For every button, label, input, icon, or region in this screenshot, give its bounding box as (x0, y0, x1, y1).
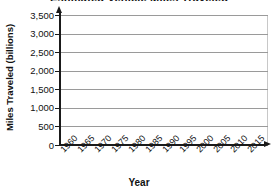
y-tick-mark (55, 89, 60, 90)
y-tick-label: 1,500 (8, 85, 54, 95)
gridline (60, 15, 268, 16)
gridline (60, 108, 268, 109)
x-axis-arrow-icon (264, 141, 271, 147)
y-tick-label: 2,500 (8, 48, 54, 58)
y-tick-label: 2,000 (8, 66, 54, 76)
y-tick-label: 500 (8, 122, 54, 132)
y-tick-label: 3,000 (8, 29, 54, 39)
y-tick-mark (55, 52, 60, 53)
y-tick-mark (55, 34, 60, 35)
y-axis-title: Miles Traveled (billions) (4, 19, 15, 137)
y-tick-mark (55, 15, 60, 16)
y-tick-mark (55, 126, 60, 127)
chart-figure: Estimated Vehicle Miles Traveled 3,500 3… (0, 0, 278, 193)
y-axis-arrow-icon (56, 6, 62, 13)
gridline (60, 89, 268, 90)
x-axis-title: Year (0, 177, 278, 188)
y-tick-mark (55, 71, 60, 72)
y-tick-label: 0 (8, 141, 54, 151)
gridline (60, 52, 268, 53)
y-tick-label: 3,500 (8, 11, 54, 21)
y-tick-label: 1,000 (8, 103, 54, 113)
chart-title: Estimated Vehicle Miles Traveled (0, 0, 278, 1)
gridline (60, 34, 268, 35)
gridline (60, 71, 268, 72)
y-tick-mark (55, 108, 60, 109)
